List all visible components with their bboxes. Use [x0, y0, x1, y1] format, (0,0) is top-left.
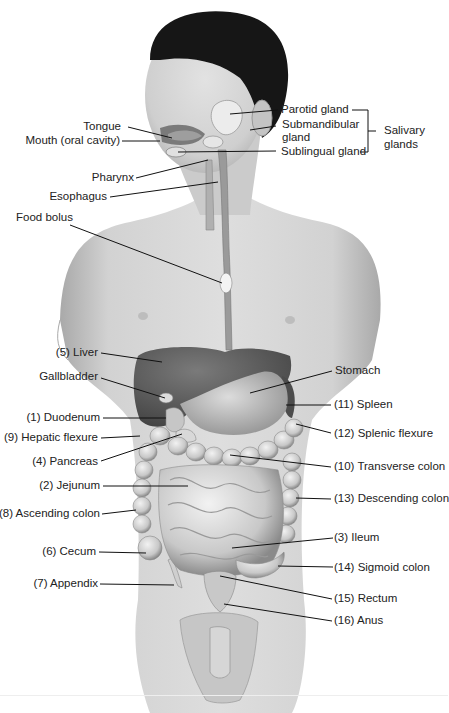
- gallbladder: [159, 393, 173, 403]
- label-hepatic-flexure: (9) Hepatic flexure: [4, 431, 98, 444]
- label-sublingual-gland: Sublingual gland: [281, 145, 366, 158]
- duodenum: [166, 408, 184, 432]
- label-pancreas: (4) Pancreas: [32, 455, 98, 468]
- small-intestine: [159, 465, 284, 576]
- label-stomach: Stomach: [335, 364, 380, 377]
- label-tongue: Tongue: [83, 120, 121, 133]
- label-sigmoid-colon: (14) Sigmoid colon: [334, 561, 430, 574]
- label-rectum: (15) Rectum: [334, 592, 397, 605]
- label-appendix: (7) Appendix: [33, 577, 98, 590]
- label-cecum: (6) Cecum: [42, 545, 96, 558]
- label-transverse-colon: (10) Transverse colon: [334, 460, 445, 473]
- label-parotid-gland: Parotid gland: [281, 103, 349, 116]
- label-ascending-colon: (8) Ascending colon: [0, 507, 100, 520]
- label-pharynx: Pharynx: [92, 171, 134, 184]
- label-descending-colon: (13) Descending colon: [334, 492, 449, 505]
- label-jejunum: (2) Jejunum: [39, 479, 100, 492]
- label-anus: (16) Anus: [334, 614, 383, 627]
- label-gallbladder: Gallbladder: [39, 370, 98, 383]
- label-ileum: (3) Ileum: [334, 531, 379, 544]
- label-salivary-2: glands: [384, 138, 418, 151]
- label-food-bolus: Food bolus: [16, 211, 73, 224]
- label-mouth: Mouth (oral cavity): [25, 134, 120, 147]
- label-salivary-1: Salivary: [384, 124, 425, 137]
- label-spleen: (11) Spleen: [334, 398, 393, 411]
- label-esophagus: Esophagus: [49, 190, 107, 203]
- label-submandibular-2: gland: [282, 131, 310, 144]
- submandibular-gland: [203, 136, 223, 148]
- label-liver: (5) Liver: [56, 346, 98, 359]
- cecum: [138, 536, 162, 560]
- ear: [252, 100, 272, 136]
- label-submandibular-1: Submandibular: [282, 118, 359, 131]
- label-splenic-flexure: (12) Splenic flexure: [334, 427, 433, 440]
- label-duodenum: (1) Duodenum: [26, 411, 100, 424]
